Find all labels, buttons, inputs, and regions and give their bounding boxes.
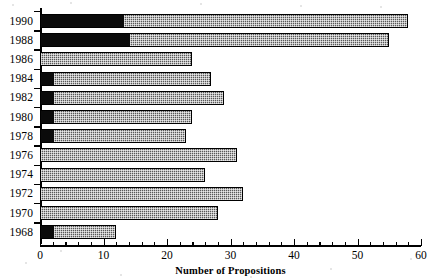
bar-segment-hatched bbox=[41, 188, 243, 200]
bar bbox=[40, 91, 224, 105]
y-axis-label-1988: 1988 bbox=[0, 34, 33, 46]
bar-segment-dark bbox=[41, 34, 130, 46]
y-axis-label-1976: 1976 bbox=[0, 149, 33, 161]
x-axis-minor-tick bbox=[129, 242, 130, 247]
bar-segment-hatched bbox=[54, 73, 212, 85]
x-axis-major-tick bbox=[104, 239, 105, 246]
scan-speckle bbox=[330, 268, 332, 270]
x-axis-minor-tick bbox=[408, 242, 409, 247]
bar-segment-dark bbox=[41, 92, 54, 104]
x-axis-label-40: 40 bbox=[274, 249, 314, 262]
x-axis-minor-tick bbox=[281, 242, 282, 247]
bar bbox=[40, 72, 211, 86]
x-axis-major-tick bbox=[421, 239, 422, 246]
y-axis-label-1972: 1972 bbox=[0, 187, 33, 199]
x-axis-minor-tick bbox=[192, 242, 193, 247]
bar bbox=[40, 225, 116, 239]
scan-speckle bbox=[410, 258, 412, 260]
bar-segment-hatched bbox=[54, 130, 186, 142]
x-axis-label-0: 0 bbox=[20, 249, 60, 262]
x-axis-minor-tick bbox=[78, 242, 79, 247]
x-axis-label-60: 60 bbox=[401, 249, 441, 262]
y-axis-label-1984: 1984 bbox=[0, 72, 33, 84]
x-axis-minor-tick bbox=[332, 242, 333, 247]
x-axis-label-50: 50 bbox=[338, 249, 378, 262]
bar bbox=[40, 187, 243, 201]
bar bbox=[40, 206, 218, 220]
bar-segment-hatched bbox=[54, 226, 117, 238]
x-axis-minor-tick bbox=[307, 242, 308, 247]
bar-segment-hatched bbox=[130, 34, 389, 46]
x-axis-major-tick bbox=[231, 239, 232, 246]
bar-segment-hatched bbox=[54, 92, 224, 104]
bar-segment-dark bbox=[41, 226, 54, 238]
x-axis-minor-tick bbox=[53, 242, 54, 247]
bar bbox=[40, 110, 192, 124]
y-axis-labels: 1990198819861984198219801978197619741972… bbox=[0, 0, 33, 280]
x-axis-minor-tick bbox=[154, 242, 155, 247]
bar-segment-hatched bbox=[124, 15, 409, 27]
x-axis-minor-tick bbox=[116, 242, 117, 247]
x-axis-minor-tick bbox=[142, 242, 143, 247]
x-axis-label-20: 20 bbox=[147, 249, 187, 262]
x-axis-minor-tick bbox=[243, 242, 244, 247]
x-axis-minor-tick bbox=[345, 242, 346, 247]
scan-speckle bbox=[300, 5, 302, 7]
y-axis-label-1980: 1980 bbox=[0, 111, 33, 123]
x-axis-minor-tick bbox=[205, 242, 206, 247]
x-axis-minor-tick bbox=[218, 242, 219, 247]
bar-segment-hatched bbox=[54, 111, 193, 123]
x-axis-minor-tick bbox=[180, 242, 181, 247]
x-axis-minor-tick bbox=[383, 242, 384, 247]
scan-speckle bbox=[120, 274, 122, 276]
x-axis-label-10: 10 bbox=[84, 249, 124, 262]
bar-segment-dark bbox=[41, 130, 54, 142]
x-axis-minor-tick bbox=[91, 242, 92, 247]
x-axis-minor-tick bbox=[370, 242, 371, 247]
y-axis-label-1986: 1986 bbox=[0, 53, 33, 65]
bar-segment-hatched bbox=[41, 53, 192, 65]
y-axis-label-1978: 1978 bbox=[0, 130, 33, 142]
bar-segment-dark bbox=[41, 111, 54, 123]
y-axis-label-1990: 1990 bbox=[0, 15, 33, 27]
scan-speckle bbox=[25, 262, 27, 264]
bar bbox=[40, 168, 205, 182]
bar bbox=[40, 148, 237, 162]
x-axis-minor-tick bbox=[269, 242, 270, 247]
scan-speckle bbox=[380, 6, 382, 8]
x-axis-major-tick bbox=[294, 239, 295, 246]
x-axis-minor-tick bbox=[65, 242, 66, 247]
y-axis-label-1968: 1968 bbox=[0, 226, 33, 238]
x-axis-major-tick bbox=[40, 239, 41, 246]
scan-speckle bbox=[12, 4, 14, 6]
x-axis-major-tick bbox=[358, 239, 359, 246]
y-axis-label-1970: 1970 bbox=[0, 207, 33, 219]
x-axis-minor-tick bbox=[319, 242, 320, 247]
plot-area bbox=[40, 10, 421, 242]
bar bbox=[40, 129, 186, 143]
y-axis-label-1982: 1982 bbox=[0, 91, 33, 103]
scan-speckle bbox=[60, 250, 62, 252]
bar-segment-hatched bbox=[41, 149, 237, 161]
bar bbox=[40, 14, 408, 28]
bar bbox=[40, 52, 192, 66]
bar-segment-hatched bbox=[41, 169, 205, 181]
scan-speckle bbox=[250, 276, 252, 278]
bar-chart: 1990198819861984198219801978197619741972… bbox=[0, 0, 441, 280]
scan-speckle bbox=[70, 2, 72, 4]
scan-speckle bbox=[200, 3, 202, 5]
bar-segment-dark bbox=[41, 73, 54, 85]
bar-segment-hatched bbox=[41, 207, 218, 219]
bar-segment-dark bbox=[41, 15, 124, 27]
bar bbox=[40, 33, 389, 47]
x-axis-minor-tick bbox=[256, 242, 257, 247]
x-axis-title: Number of Propositions bbox=[40, 265, 421, 276]
y-axis-label-1974: 1974 bbox=[0, 168, 33, 180]
x-axis-major-tick bbox=[167, 239, 168, 246]
x-axis-minor-tick bbox=[396, 242, 397, 247]
x-axis-label-30: 30 bbox=[211, 249, 251, 262]
